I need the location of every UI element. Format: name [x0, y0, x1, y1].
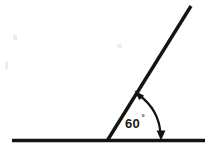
scan-speck [117, 44, 122, 48]
angle-label: 60 [125, 116, 140, 131]
scan-speck [5, 62, 8, 69]
inclined-ray [107, 6, 191, 141]
degree-symbol: ° [142, 113, 145, 122]
angle-diagram-canvas: 60 ° [0, 0, 218, 152]
angle-diagram-figure: 60 ° [0, 0, 218, 152]
scan-speck [13, 35, 17, 40]
